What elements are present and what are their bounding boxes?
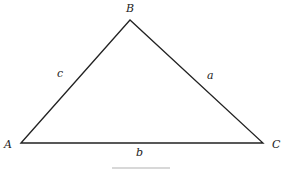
vertex-label-b: B	[126, 3, 134, 14]
triangle-figure	[0, 0, 284, 169]
vertex-label-a: A	[4, 139, 12, 150]
side-label-c: c	[57, 68, 63, 79]
triangle-abc	[21, 20, 263, 143]
side-label-b: b	[136, 147, 143, 158]
figure-caption-clipped	[112, 165, 170, 169]
side-label-a: a	[207, 70, 214, 81]
vertex-label-c: C	[272, 139, 280, 150]
